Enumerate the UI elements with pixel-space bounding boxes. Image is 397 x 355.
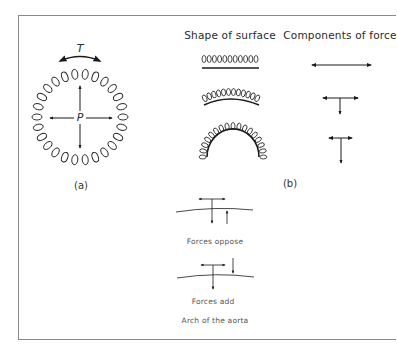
shape-flat <box>202 56 259 69</box>
forces-oppose-diagram <box>176 199 253 224</box>
figure-caption: Arch of the aorta <box>182 317 249 325</box>
panel-a-label: (a) <box>74 181 88 191</box>
forces-add-diagram <box>177 258 254 289</box>
forces-add-label: Forces add <box>192 298 235 306</box>
components-column-header: Components of force <box>283 30 396 41</box>
shape-semicircle <box>199 123 267 160</box>
force-components-semicircle-icon <box>329 138 352 163</box>
pressure-label: P <box>76 112 85 123</box>
force-components-curve-icon <box>323 98 358 114</box>
shape-slight-curve <box>201 88 260 105</box>
forces-oppose-label: Forces oppose <box>187 238 243 246</box>
tension-arrow-icon <box>60 57 100 62</box>
frame <box>18 15 396 340</box>
tension-label: T <box>77 43 84 54</box>
panel-b-label: (b) <box>283 179 297 189</box>
shape-column-header: Shape of surface <box>184 30 276 41</box>
